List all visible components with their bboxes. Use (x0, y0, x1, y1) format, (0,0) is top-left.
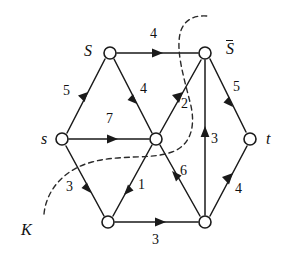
node-center[interactable] (150, 133, 162, 145)
node-label-Sbar: S (226, 40, 234, 57)
weight-label-s-bl: 3 (66, 180, 73, 194)
arrowhead-bl-br (155, 218, 166, 227)
arrowhead-s-c (107, 135, 118, 144)
node-label-t: t (266, 131, 270, 147)
weight-label-S-c: 4 (140, 82, 147, 96)
node-Sbar[interactable] (199, 47, 211, 59)
arrowhead-s-bl (82, 183, 92, 194)
node-bottom-right[interactable] (199, 216, 211, 228)
node-t[interactable] (244, 133, 256, 145)
weight-label-bl-br: 3 (152, 233, 159, 247)
edge-c-bl (113, 145, 152, 216)
node-label-S: S (84, 43, 92, 59)
node-s[interactable] (56, 133, 68, 145)
weight-label-s-S: 5 (63, 84, 70, 98)
edge-br-c (160, 145, 200, 216)
node-S[interactable] (104, 47, 116, 59)
arrowhead-S-c (128, 94, 138, 104)
weight-label-s-c: 7 (106, 112, 113, 126)
cut-label-K: K (21, 222, 32, 238)
node-group (56, 47, 256, 228)
arrowhead-br-t (222, 173, 233, 185)
weight-label-br-c: 6 (180, 164, 187, 178)
edge-Sbar-t (210, 59, 246, 132)
node-label-s: s (41, 131, 47, 147)
weight-label-c-Sbar: 2 (181, 97, 188, 111)
node-bottom-left[interactable] (102, 216, 114, 228)
arrowhead-br-Sbar (201, 126, 210, 137)
weight-label-br-t: 4 (235, 182, 242, 196)
arrowhead-S-Sbar (152, 49, 163, 58)
arrowhead-c-bl (124, 185, 134, 196)
weight-label-S-Sbar: 4 (150, 27, 157, 41)
flow-network-figure: S S s t K 4 5 4 7 2 5 3 3 1 6 3 4 (0, 0, 286, 259)
weight-label-br-Sbar: 3 (211, 132, 218, 146)
overline-S-text: S (226, 40, 234, 57)
weight-label-Sbar-t: 5 (233, 80, 240, 94)
weight-label-c-bl: 1 (138, 178, 145, 192)
